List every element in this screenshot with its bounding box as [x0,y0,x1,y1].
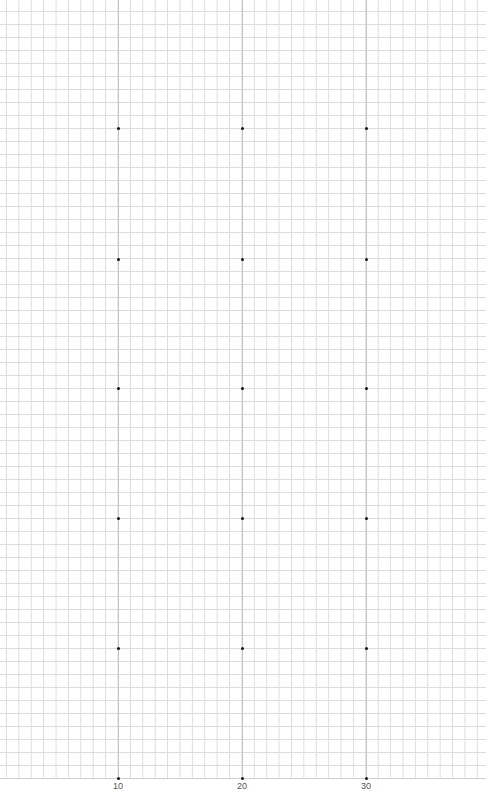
grid-dot [241,127,244,130]
grid-dot [365,258,368,261]
grid-dot [241,647,244,650]
grid-dot [117,647,120,650]
grid-dot [241,387,244,390]
grid-dot [241,777,244,780]
grid-dot [365,127,368,130]
grid-dot [117,517,120,520]
x-label-30: 30 [361,781,371,791]
grid-dot [241,517,244,520]
grid-dot [365,777,368,780]
x-label-10: 10 [113,781,123,791]
grid-dot [117,258,120,261]
grid-dot [365,387,368,390]
grid-dot [241,258,244,261]
grid-dot [117,127,120,130]
grid-dot [117,777,120,780]
grid-dot [365,647,368,650]
x-label-20: 20 [237,781,247,791]
grid-dot [365,517,368,520]
grid-dot [117,387,120,390]
